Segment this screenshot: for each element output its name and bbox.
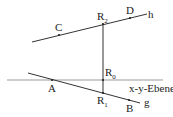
label-h: h [148,8,154,20]
label-A: A [48,82,56,94]
label-plane: x-y-Ebene [129,82,173,94]
label-R1: R1 [97,94,108,109]
point-D-dot [129,17,131,19]
point-C-dot [58,34,60,36]
label-R0: R0 [105,66,116,81]
label-C: C [55,21,62,33]
line-g [28,73,140,103]
point-R0-dot [102,79,104,81]
point-A-dot [51,79,53,81]
label-B: B [126,102,133,114]
label-R2: R2 [97,10,108,25]
label-g: g [144,96,150,108]
label-D: D [126,4,134,16]
diagram-canvas: C D h R2 R0 R1 A B g x-y-Ebene [0,0,173,117]
point-B-dot [128,99,130,101]
